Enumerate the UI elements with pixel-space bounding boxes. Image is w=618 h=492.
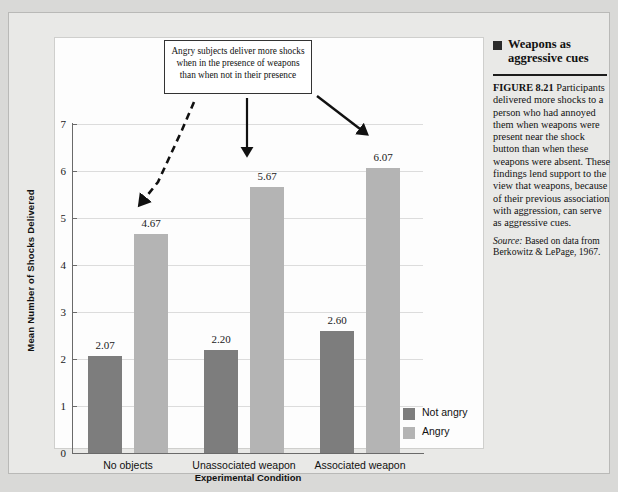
figure-container: 0 1 2 3 4 5 6 7 Mean Number of Shocks De… xyxy=(0,0,618,492)
figure-mount: 0 1 2 3 4 5 6 7 Mean Number of Shocks De… xyxy=(8,12,610,474)
figure-caption-body: Participants delivered more shocks to a … xyxy=(493,82,610,228)
sidebar-caption: Weapons as aggressive cues FIGURE 8.21 P… xyxy=(493,37,611,258)
source-label: Source: xyxy=(493,235,522,246)
sidebar-divider xyxy=(493,74,607,76)
arrow-solid-down-right xyxy=(317,96,364,132)
arrow-dashed-down-left xyxy=(142,102,194,202)
square-bullet-icon xyxy=(493,41,502,50)
sidebar-title: Weapons as aggressive cues xyxy=(508,37,611,65)
sidebar-caption-text: FIGURE 8.21 Participants delivered more … xyxy=(493,82,611,230)
sidebar-source: Source: Based on data from Berkowitz & L… xyxy=(493,235,611,258)
sidebar-heading: Weapons as aggressive cues xyxy=(493,37,611,65)
figure-number: FIGURE 8.21 xyxy=(493,82,554,93)
